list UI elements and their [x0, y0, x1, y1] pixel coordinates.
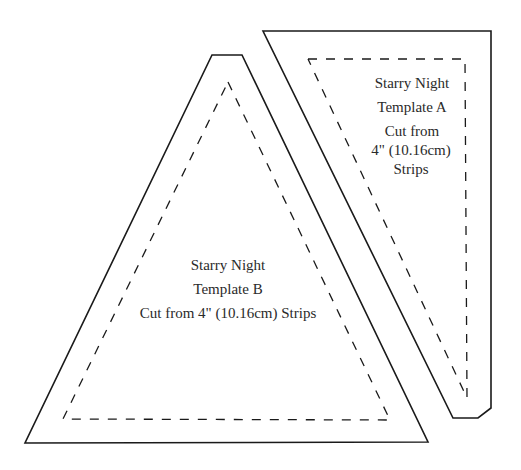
template-a: Starry Night Template A Cut from 4" (10.…: [263, 31, 491, 418]
template-b: Starry Night Template B Cut from 4" (10.…: [25, 55, 428, 443]
quilt-templates-diagram: Starry Night Template B Cut from 4" (10.…: [0, 0, 521, 470]
template-a-name: Template A: [377, 99, 447, 115]
template-a-strips: Strips: [393, 161, 428, 177]
template-b-name: Template B: [193, 281, 262, 297]
template-a-cut-from: Cut from: [385, 123, 440, 139]
template-b-cut-instructions: Cut from 4" (10.16cm) Strips: [140, 305, 317, 322]
template-a-title: Starry Night: [375, 75, 450, 91]
template-b-seam-line: [63, 82, 390, 420]
template-b-cut-line: [25, 55, 428, 443]
template-b-title: Starry Night: [191, 257, 266, 273]
template-a-strip-size: 4" (10.16cm): [371, 142, 450, 159]
